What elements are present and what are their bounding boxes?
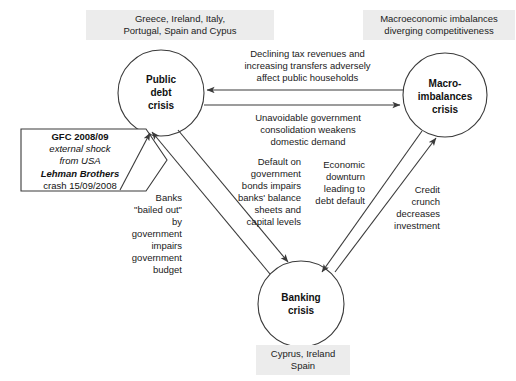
diagram-canvas: Greece, Ireland, Italy, Portugal, Spain … xyxy=(0,0,516,381)
shock-callout-text: GFC 2008/09 external shock from USA Lehm… xyxy=(20,131,140,192)
edge-label-banking-to-macro: Credit crunch decreases investment xyxy=(358,184,440,232)
node-label-banking: Banking crisis xyxy=(261,291,341,317)
context-label-text: Macroeconomic imbalances diverging compe… xyxy=(380,13,498,36)
context-label-text: Greece, Ireland, Italy, Portugal, Spain … xyxy=(123,13,236,36)
edge-label-macro-to-public: Declining tax revenues and increasing tr… xyxy=(215,48,400,84)
edge-label-banking-to-public: Banks "bailed out" by government impairs… xyxy=(93,192,182,276)
shock-line-2: external shock xyxy=(20,143,140,155)
context-label-banking-countries: Cyprus, Ireland Spain xyxy=(256,345,350,375)
shock-line-5: crash 15/09/2008 xyxy=(20,180,140,192)
context-label-macro-imbalances-note: Macroeconomic imbalances diverging compe… xyxy=(363,10,515,40)
node-label-macro-imbalances: Macro- imbalances crisis xyxy=(403,77,487,116)
context-label-public-debt-countries: Greece, Ireland, Italy, Portugal, Spain … xyxy=(86,10,274,40)
shock-line-1: GFC 2008/09 xyxy=(20,131,140,143)
context-label-text: Cyprus, Ireland Spain xyxy=(271,348,335,371)
shock-line-4: Lehman Brothers xyxy=(20,168,140,180)
node-label-public-debt: Public debt crisis xyxy=(121,73,201,112)
edge-label-macro-to-banking: Economic downturn leading to debt defaul… xyxy=(281,159,365,207)
edge-label-public-to-macro: Unavoidable government consolidation wea… xyxy=(223,112,393,148)
shock-line-3: from USA xyxy=(20,155,140,167)
